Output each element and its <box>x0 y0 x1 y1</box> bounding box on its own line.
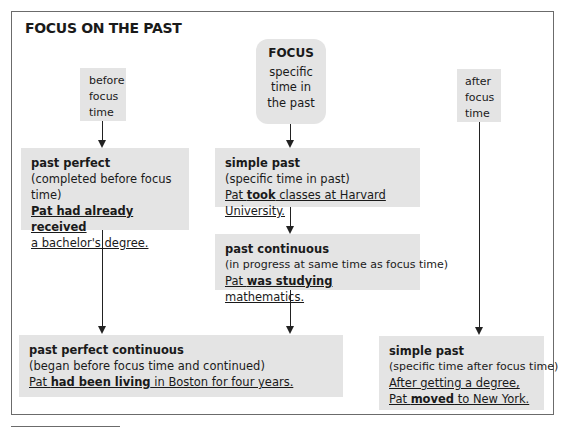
simple-past-box: simple past (specific time in past) Pat … <box>215 148 420 207</box>
box-line: focus <box>465 90 501 106</box>
tense-example: After getting a degree, <box>389 375 536 391</box>
tense-example: Pat took classes at Harvard University. <box>225 187 412 219</box>
example-verb: had been living <box>51 375 151 389</box>
past-continuous-box: past continuous (in progress at same tim… <box>215 234 420 290</box>
past-perfect-continuous-box: past perfect continuous (began before fo… <box>19 335 343 397</box>
box-line: time in <box>256 80 326 96</box>
simple-past-after-box: simple past (specific time after focus t… <box>379 336 544 410</box>
example-verb: was studying <box>247 274 333 288</box>
tense-example: Pat had already received <box>31 203 181 235</box>
tense-description: (completed before focus time) <box>31 171 181 203</box>
example-rest: mathematics. <box>225 290 304 304</box>
arrow-down-icon <box>286 226 294 234</box>
tense-example: a bachelor's degree. <box>31 235 181 251</box>
tense-name: simple past <box>389 343 536 359</box>
box-line: after <box>465 74 501 90</box>
tense-description: (specific time in past) <box>225 171 412 187</box>
box-line: time <box>89 105 126 121</box>
arrow-down-icon <box>286 326 294 334</box>
arrow-down-icon <box>98 140 106 148</box>
box-line: before <box>89 73 126 89</box>
example-subject: Pat <box>389 392 411 406</box>
tense-example: Pat moved to New York. <box>389 391 536 407</box>
tense-description: (in progress at same time as focus time) <box>225 257 412 273</box>
tense-name: past perfect continuous <box>29 342 335 358</box>
focus-box: FOCUS specific time in the past <box>256 39 326 124</box>
tense-name: simple past <box>225 155 412 171</box>
tense-description: (specific time after focus time) <box>389 359 536 375</box>
focus-title: FOCUS <box>256 46 326 62</box>
example-verb: moved <box>411 392 454 406</box>
after-focus-time-box: after focus time <box>457 69 501 122</box>
past-perfect-box: past perfect (completed before focus tim… <box>21 148 189 230</box>
example-subject: Pat <box>225 188 247 202</box>
example-subject: Pat <box>29 375 51 389</box>
example-verb: took <box>247 188 276 202</box>
tense-description: (began before focus time and continued) <box>29 358 335 374</box>
box-line: specific <box>256 65 326 81</box>
tense-name: past continuous <box>225 241 412 257</box>
example-rest: to New York. <box>454 392 529 406</box>
footnote-rule <box>11 426 120 427</box>
box-line: the past <box>256 96 326 112</box>
before-focus-time-box: before focus time <box>80 68 126 121</box>
tense-example: Pat was studying mathematics. <box>225 273 412 305</box>
connector-line <box>102 121 103 142</box>
box-line: focus <box>89 89 126 105</box>
example-rest: in Boston for four years. <box>151 375 294 389</box>
tense-name: past perfect <box>31 155 181 171</box>
example-subject: Pat <box>225 274 247 288</box>
arrow-down-icon <box>98 326 106 334</box>
connector-line <box>479 122 480 328</box>
arrow-down-icon <box>475 327 483 335</box>
diagram-title: FOCUS ON THE PAST <box>25 20 182 36</box>
box-line: time <box>465 106 501 122</box>
arrow-down-icon <box>286 140 294 148</box>
tense-example: Pat had been living in Boston for four y… <box>29 374 335 390</box>
